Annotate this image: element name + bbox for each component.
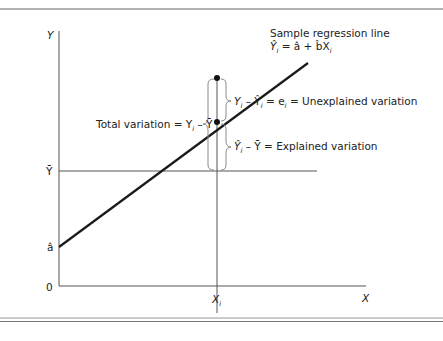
- observed-point-y-i: [214, 75, 220, 81]
- total-variation-label: Total variation = Yi – Ȳ: [95, 118, 213, 133]
- origin-label: 0: [46, 281, 53, 293]
- regression-title: Sample regression line: [270, 27, 390, 39]
- y-bar-label: Ȳ: [45, 165, 53, 177]
- regression-line: [59, 63, 308, 247]
- a-hat-label: â: [47, 241, 53, 253]
- regression-variation-diagram: Y Ȳ â 0 X Xi Sample regression line Ŷi =…: [0, 0, 443, 341]
- explained-brace: [221, 124, 231, 170]
- regression-equation: Ŷi = â + b̂Xi: [270, 40, 332, 55]
- explained-variation-label: Ŷi – Ȳ = Explained variation: [234, 140, 378, 155]
- y-axis-label: Y: [47, 29, 55, 41]
- unexplained-brace: [221, 79, 231, 121]
- predicted-point-y-hat-i: [214, 119, 220, 125]
- x-axis-label: X: [361, 292, 370, 304]
- x-i-label: Xi: [211, 293, 221, 308]
